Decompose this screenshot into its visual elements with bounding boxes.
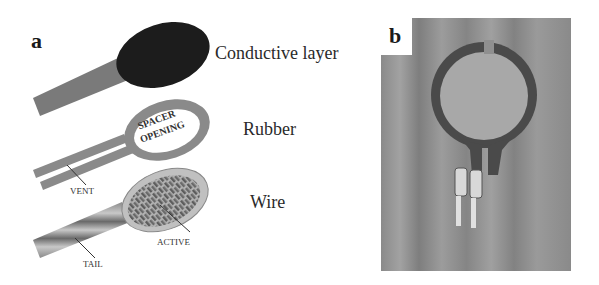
conductive-layer-label: Conductive layer <box>215 44 338 62</box>
wire-layer-label: Wire <box>250 193 285 211</box>
tail-callout: TAIL <box>83 260 103 269</box>
active-callout: ACTIVE <box>157 238 190 247</box>
vent-callout: VENT <box>70 187 94 196</box>
conductive-layer-shape <box>33 11 218 116</box>
panel-a-letter: a <box>31 30 42 52</box>
panel-a: a Conductive layer Rubber Wire SPACER OP… <box>0 0 370 285</box>
panel-b-letter: b <box>389 25 401 47</box>
rubber-layer-label: Rubber <box>243 120 296 138</box>
panel-b: b <box>370 0 599 285</box>
sensor-photo <box>370 0 599 285</box>
